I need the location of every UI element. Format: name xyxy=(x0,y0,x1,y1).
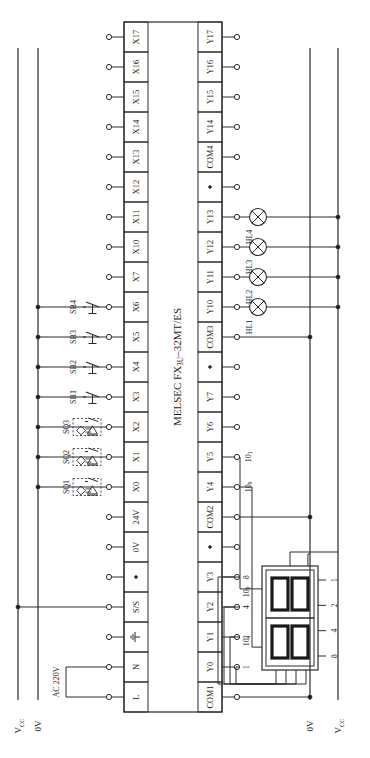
input-terminal-label-X3: X3 xyxy=(131,392,141,403)
output-node-COM1 xyxy=(234,694,239,699)
output-terminal-label-Y6: Y6 xyxy=(206,422,215,432)
blank-terminal-dot xyxy=(209,366,212,369)
display-weight-label-1: 1 xyxy=(330,578,339,582)
input-terminal-label-X12: X12 xyxy=(131,180,141,195)
output-node-COM4 xyxy=(234,154,239,159)
input-node-X1 xyxy=(106,454,111,459)
pushbutton-label-SB2: SB2 xyxy=(69,360,78,374)
output-terminal-label-Y3: Y3 xyxy=(206,572,215,582)
output-node-• xyxy=(234,364,239,369)
input-terminal-label-X15: X15 xyxy=(131,90,141,105)
input-node-X7 xyxy=(106,274,111,279)
input-terminal-label-X13: X13 xyxy=(131,150,141,165)
input-node-X6 xyxy=(106,304,111,309)
output-terminal-label-Y10: Y10 xyxy=(206,300,215,314)
rail-vcc-right-label: VCC xyxy=(333,719,344,734)
rail-0v-left-label: 0V xyxy=(33,720,43,732)
input-node-• xyxy=(106,574,111,579)
junction-vcc-HL2 xyxy=(336,275,340,279)
output-terminal-label-COM1: COM1 xyxy=(206,686,215,709)
input-terminal-label-X0: X0 xyxy=(131,482,141,493)
svg-text:101: 101 xyxy=(244,451,254,462)
diagram-canvas: X17X16X15X14X13X12X11X10X7X6X5X4X3X2X1X0… xyxy=(0,0,370,758)
input-terminal-label-X4: X4 xyxy=(131,361,141,372)
blank-terminal-dot xyxy=(135,576,138,579)
input-terminal-label-X6: X6 xyxy=(131,301,141,312)
lamp-label-HL4: HL4 xyxy=(245,230,254,245)
output-terminal-label-Y17: Y17 xyxy=(206,30,215,44)
input-terminal-label-X10: X10 xyxy=(131,240,141,255)
svg-text:VCC: VCC xyxy=(13,719,24,734)
output-node-COM3 xyxy=(234,334,239,339)
plc-model-label: MELSEC FX3U–32MT/ES xyxy=(171,308,185,426)
junction-0v-com3 xyxy=(308,335,312,339)
input-terminal-label-X7: X7 xyxy=(131,271,141,282)
pushbutton-label-SB3: SB3 xyxy=(69,330,78,344)
digit-low-seg-left xyxy=(272,626,288,658)
input-terminal-label-X16: X16 xyxy=(131,59,141,75)
output-node-Y13 xyxy=(234,214,239,219)
junction-0v-com2 xyxy=(308,515,312,519)
sensor-label-SQ2: SQ2 xyxy=(62,450,71,464)
input-node-X4 xyxy=(106,364,111,369)
output-node-Y16 xyxy=(234,64,239,69)
input-terminal-label-N: N xyxy=(131,663,141,670)
input-terminal-label-X11: X11 xyxy=(131,210,141,224)
output-terminal-label-COM2: COM2 xyxy=(206,506,215,529)
input-node-X13 xyxy=(106,154,111,159)
output-node-Y4 xyxy=(234,484,239,489)
sensor-label-SQ1: SQ1 xyxy=(62,480,71,494)
input-node-L xyxy=(106,694,111,699)
output-node-Y6 xyxy=(234,424,239,429)
junction-vcc-ss xyxy=(16,605,20,609)
output-terminal-label-Y13: Y13 xyxy=(206,210,215,224)
bcd-weight-label-4: 4 xyxy=(242,605,251,609)
lamp-label-HL1: HL1 xyxy=(245,320,254,335)
junction-vcc-HL3 xyxy=(336,245,340,249)
output-terminal-label-Y14: Y14 xyxy=(206,120,215,134)
digit-high-seg-left xyxy=(272,578,288,610)
output-terminal-label-Y4: Y4 xyxy=(206,482,215,492)
input-node-S/S xyxy=(106,604,111,609)
junction-vcc-HL1 xyxy=(336,305,340,309)
lamp-label-HL3: HL3 xyxy=(245,260,254,275)
junction-0v-SB2 xyxy=(36,365,40,369)
output-terminal-label-Y7: Y7 xyxy=(206,392,215,402)
rail-0v-right-label: 0V xyxy=(305,720,315,732)
input-node-X0 xyxy=(106,484,111,489)
digit-low-seg-right xyxy=(292,626,308,658)
output-node-• xyxy=(234,544,239,549)
lamp-label-HL2: HL2 xyxy=(245,290,254,305)
input-node-X2 xyxy=(106,424,111,429)
input-node-X14 xyxy=(106,124,111,129)
input-terminal-label-0V: 0V xyxy=(131,541,141,552)
output-node-Y11 xyxy=(234,274,239,279)
rail-vcc-left-label: VCC xyxy=(13,719,24,734)
blank-terminal-dot xyxy=(209,546,212,549)
input-node-X17 xyxy=(106,34,111,39)
input-terminal-label-X14: X14 xyxy=(131,119,141,135)
input-node-0V xyxy=(106,544,111,549)
output-terminal-label-Y1: Y1 xyxy=(206,632,215,642)
input-terminal-label-X2: X2 xyxy=(131,422,141,433)
output-terminal-label-Y0: Y0 xyxy=(206,662,215,672)
junction-0v-SQ2 xyxy=(36,455,40,459)
svg-text:VCC: VCC xyxy=(333,719,344,734)
bcd-weight-label-8: 8 xyxy=(242,575,251,579)
output-node-Y12 xyxy=(234,244,239,249)
input-terminal-label-X1: X1 xyxy=(131,452,141,463)
output-node-Y15 xyxy=(234,94,239,99)
y5-digit-select-label: 101 xyxy=(244,451,254,462)
blank-terminal-dot xyxy=(209,186,212,189)
input-node-X11 xyxy=(106,214,111,219)
input-terminal-label-24V: 24V xyxy=(131,509,141,525)
input-node-X5 xyxy=(106,334,111,339)
input-node-X10 xyxy=(106,244,111,249)
bcd-weight-label-2: 2 xyxy=(242,635,251,639)
output-terminal-label-Y12: Y12 xyxy=(206,240,215,254)
display-digit-low-label: 100 xyxy=(242,586,252,597)
input-node-X16 xyxy=(106,64,111,69)
sensor-label-SQ3: SQ3 xyxy=(62,420,71,434)
output-node-Y5 xyxy=(234,454,239,459)
display-weight-label-8: 8 xyxy=(330,654,339,658)
